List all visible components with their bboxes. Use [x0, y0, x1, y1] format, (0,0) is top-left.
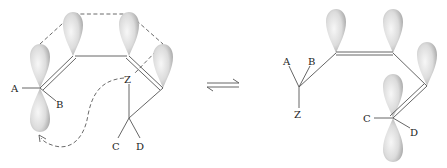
double-bond — [336, 52, 393, 55]
curved-arrow — [41, 78, 124, 147]
single-bond — [299, 53, 336, 87]
p-orbital-lobe — [326, 9, 346, 53]
label-z: Z — [294, 109, 301, 120]
label-a: A — [10, 83, 19, 94]
p-orbital-lobe — [383, 118, 403, 162]
equilibrium-arrows-icon — [207, 79, 239, 91]
right-structure: A B Z C D — [282, 9, 437, 162]
arrow-head-icon — [39, 135, 46, 142]
label-b: B — [308, 56, 315, 67]
label-c: C — [363, 113, 371, 124]
p-orbital-lobe — [30, 88, 50, 132]
label-b: B — [56, 99, 63, 110]
label-d: D — [410, 127, 418, 138]
p-orbital-lobe — [63, 12, 83, 56]
bond-d — [129, 118, 140, 138]
p-orbital-lobe — [383, 9, 403, 53]
bond-c — [118, 118, 129, 138]
label-d: D — [136, 141, 144, 152]
orbital-diagram: A B Z C D A B Z C D — [0, 0, 447, 168]
overlap-dashed-outline — [40, 14, 163, 74]
bond-a — [289, 66, 299, 87]
label-c: C — [112, 141, 120, 152]
label-z: Z — [124, 74, 131, 85]
left-structure: A B Z C D — [10, 12, 173, 152]
label-a: A — [282, 56, 291, 67]
single-bond — [129, 88, 163, 118]
p-orbital-lobe — [119, 12, 139, 56]
bond-b — [299, 66, 310, 87]
